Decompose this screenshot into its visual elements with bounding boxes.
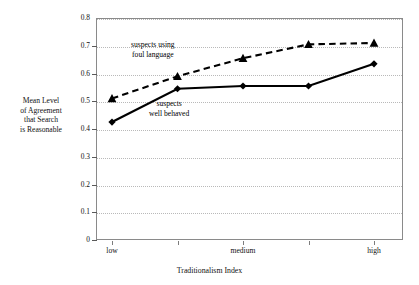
x-tick-mark bbox=[178, 241, 179, 245]
x-tick-mark bbox=[309, 241, 310, 245]
x-tick-label-medium: medium bbox=[213, 246, 273, 255]
y-tick-mark bbox=[92, 212, 97, 213]
y-tick-label: 0.3 bbox=[0, 153, 90, 161]
x-tick-label-low: low bbox=[82, 246, 142, 255]
y-tick-label: 0.6 bbox=[0, 70, 90, 78]
annotation-well-behaved-line-1: suspects bbox=[149, 99, 189, 109]
annotation-foul-language-line-1: suspects using bbox=[131, 40, 175, 50]
gridline bbox=[97, 102, 402, 103]
x-axis-title: Traditionalism Index bbox=[0, 266, 419, 275]
y-tick-label: 0.4 bbox=[0, 125, 90, 133]
y-tick-label: 0.2 bbox=[0, 181, 90, 189]
y-tick-label: 0 bbox=[0, 236, 90, 244]
gridline bbox=[97, 130, 402, 131]
gridline bbox=[97, 186, 402, 187]
series-annotation-foul-language: suspects using foul language bbox=[131, 40, 175, 60]
y-tick-label: 0.7 bbox=[0, 42, 90, 50]
gridline bbox=[97, 19, 402, 20]
x-tick-label-high: high bbox=[344, 246, 404, 255]
annotation-well-behaved-line-2: well behaved bbox=[149, 109, 189, 119]
y-tick-mark bbox=[92, 129, 97, 130]
y-tick-mark bbox=[92, 185, 97, 186]
y-tick-mark bbox=[92, 157, 97, 158]
chart-figure: Mean Level of Agreement that Search is R… bbox=[0, 0, 419, 285]
x-tick-mark bbox=[112, 241, 113, 245]
annotation-foul-language-line-2: foul language bbox=[131, 50, 175, 60]
y-tick-mark bbox=[92, 240, 97, 241]
y-tick-label: 0.1 bbox=[0, 208, 90, 216]
y-axis-title-line-2: of Agreement bbox=[2, 106, 80, 116]
y-tick-mark bbox=[92, 101, 97, 102]
y-tick-mark bbox=[92, 74, 97, 75]
x-tick-mark bbox=[374, 241, 375, 245]
gridline bbox=[97, 213, 402, 214]
x-tick-mark bbox=[243, 241, 244, 245]
y-tick-label: 0.8 bbox=[0, 14, 90, 22]
gridline bbox=[97, 75, 402, 76]
gridline bbox=[97, 158, 402, 159]
series-annotation-well-behaved: suspects well behaved bbox=[149, 99, 189, 119]
y-tick-label: 0.5 bbox=[0, 97, 90, 105]
y-tick-mark bbox=[92, 46, 97, 47]
y-axis-title-line-3: that Search bbox=[2, 115, 80, 125]
